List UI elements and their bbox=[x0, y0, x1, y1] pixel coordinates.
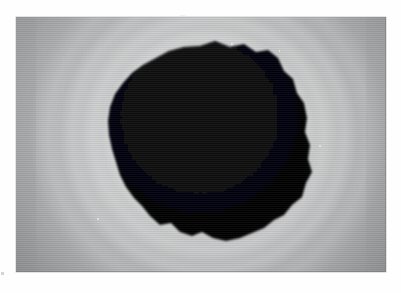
margin-mark-upper-center bbox=[180, 15, 185, 16]
page-canvas bbox=[0, 0, 401, 293]
diffraction-halo-rings bbox=[16, 17, 386, 272]
photographic-plate bbox=[16, 17, 386, 272]
margin-mark-lower-left bbox=[1, 272, 4, 275]
